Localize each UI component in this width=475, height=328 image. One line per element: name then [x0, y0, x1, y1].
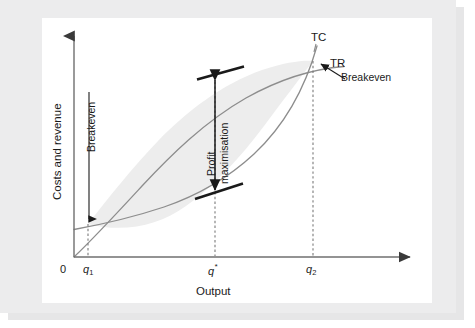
label-total-cost: TC — [311, 32, 326, 44]
tangent-segment-upper — [197, 67, 244, 80]
label-profit-maximisation-line1: Profit — [206, 151, 217, 176]
x-tick-q2-sub: 2 — [312, 268, 316, 277]
x-tick-q1-sub: 1 — [89, 268, 93, 277]
diagram-canvas — [0, 0, 475, 328]
axis-origin-label: 0 — [60, 264, 66, 275]
x-tick-label-q2: q2 — [306, 264, 316, 275]
x-tick-label-q1: q1 — [83, 264, 93, 275]
figure-root: TC TR Breakeven 0 q1 q* q2 Output Costs … — [0, 0, 475, 328]
label-breakeven-left: Breakeven — [86, 102, 97, 152]
label-profit-maximisation-line2: maximisation — [219, 123, 230, 184]
x-axis-label: Output — [196, 286, 231, 298]
x-tick-qstar-sup: * — [214, 262, 217, 271]
x-tick-label-qstar: q* — [208, 264, 217, 277]
y-axis-label: Costs and revenue — [52, 103, 64, 200]
label-breakeven-right: Breakeven — [341, 72, 391, 83]
profit-region-shading — [88, 61, 313, 228]
label-total-revenue: TR — [330, 58, 345, 70]
